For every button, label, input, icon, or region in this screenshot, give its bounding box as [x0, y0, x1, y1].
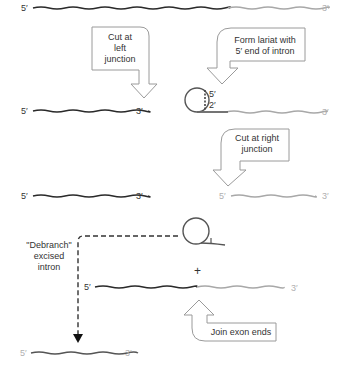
excised-lariat-loop	[183, 218, 209, 244]
label-3prime-lariat: 3′	[322, 107, 329, 117]
cut-left-line-1: Cut at	[95, 32, 145, 43]
label-2prime-branch: 2′	[209, 100, 216, 110]
debranch-dashed-path	[78, 236, 178, 334]
label-5prime-intron: 5′	[20, 348, 27, 358]
splicing-diagram: 5′ 3′ Cut at left junction Form lariat w…	[0, 0, 343, 377]
label-5prime-exon2: 5′	[219, 191, 226, 201]
label-5prime-row1: 5′	[21, 3, 28, 13]
label-3prime-row2: 3′	[136, 106, 143, 116]
debranch-label: "Debranch" excised intron	[22, 240, 76, 273]
join-exons-line-1: Join exon ends	[207, 327, 275, 338]
debranch-line-3: intron	[22, 262, 76, 273]
label-3prime-intron: 3′	[125, 348, 132, 358]
pre-mrna-left-strand	[33, 7, 230, 9]
exon1-strand	[33, 110, 150, 112]
pre-mrna-right-strand	[228, 7, 329, 9]
excised-lariat-tail	[201, 243, 225, 245]
exon2-strand-row3	[231, 195, 316, 197]
form-lariat-label: Form lariat with 5′ end of intron	[225, 35, 305, 57]
label-5prime-row2: 5′	[21, 106, 28, 116]
cut-left-label: Cut at left junction	[95, 32, 145, 65]
cut-left-line-2: left	[95, 43, 145, 54]
spliced-exon1-strand	[95, 286, 197, 288]
linear-intron-strand	[31, 352, 138, 354]
spliced-exon2-strand	[197, 286, 284, 288]
debranch-line-2: excised	[22, 251, 76, 262]
label-5prime-branch: 5′	[209, 89, 216, 99]
plus-sign: +	[194, 266, 201, 276]
form-lariat-line-2: 5′ end of intron	[225, 46, 305, 57]
cut-right-label: Cut at right junction	[226, 133, 288, 155]
debranch-line-1: "Debranch"	[22, 240, 76, 251]
cut-right-line-2: junction	[226, 144, 288, 155]
label-3prime-row3: 3′	[136, 191, 143, 201]
debranch-arrowhead	[73, 334, 83, 343]
label-3prime-spliced: 3′	[291, 283, 298, 293]
cut-left-line-3: junction	[95, 54, 145, 65]
label-5prime-spliced: 5′	[84, 282, 91, 292]
form-lariat-line-1: Form lariat with	[225, 35, 305, 46]
label-3prime-row1: 3′	[322, 3, 329, 13]
join-exons-label: Join exon ends	[207, 327, 275, 338]
label-5prime-row3: 5′	[21, 191, 28, 201]
label-3prime-exon2: 3′	[322, 191, 329, 201]
exon1-strand-row3	[33, 195, 150, 197]
cut-right-line-1: Cut at right	[226, 133, 288, 144]
